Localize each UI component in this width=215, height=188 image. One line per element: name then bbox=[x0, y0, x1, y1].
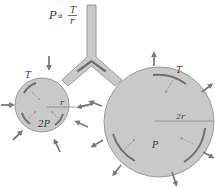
arrow-icon bbox=[93, 140, 103, 146]
radius-label: 2r bbox=[175, 112, 186, 121]
arrow-icon bbox=[202, 85, 211, 92]
formula-lhs: P bbox=[48, 9, 57, 22]
pressure-label: P bbox=[151, 140, 159, 150]
formula-denominator: r bbox=[70, 16, 75, 26]
pressure-label: 2P bbox=[37, 119, 51, 129]
formula-numerator: T bbox=[70, 5, 77, 15]
arrow-icon bbox=[203, 152, 212, 157]
arrow-icon bbox=[77, 122, 88, 127]
arrow-icon bbox=[13, 132, 21, 140]
tension-label: T bbox=[176, 65, 183, 75]
arrow-icon bbox=[114, 165, 121, 174]
alveoli-laplace-diagram: T r 2P T 2r P P ∝ bbox=[0, 0, 215, 188]
tension-label: T bbox=[25, 70, 32, 80]
arrow-icon bbox=[55, 141, 60, 152]
arrow-icon bbox=[91, 102, 102, 106]
laplace-formula: P ∝ T r bbox=[48, 5, 77, 26]
proportional-symbol: ∝ bbox=[57, 11, 63, 21]
arrow-icon bbox=[79, 104, 92, 107]
